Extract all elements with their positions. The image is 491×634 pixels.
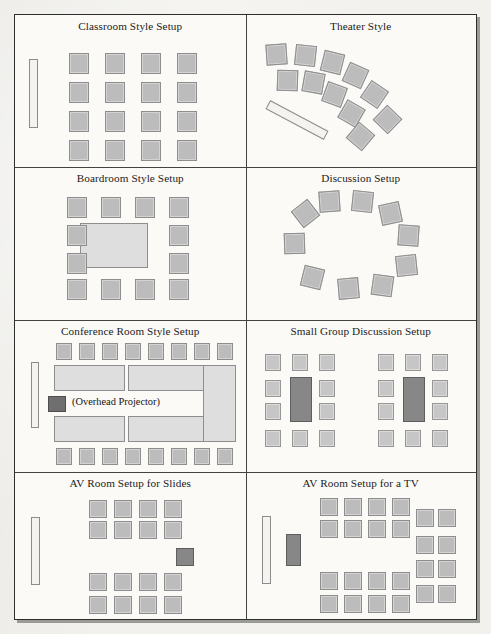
chair [438, 536, 456, 554]
chair [337, 277, 360, 300]
chair [292, 430, 308, 447]
chair [89, 500, 107, 518]
chair [194, 448, 210, 465]
chair [105, 111, 125, 132]
chair [319, 380, 335, 397]
chair [148, 343, 164, 360]
slide-projector [176, 548, 194, 566]
chair [67, 279, 87, 300]
panel-boardroom-style-setup: Boardroom Style Setup [15, 167, 246, 320]
chair [164, 573, 182, 591]
chair [114, 521, 132, 539]
chair [105, 53, 125, 74]
table [128, 365, 207, 391]
chair [392, 498, 410, 516]
panel-title: AV Room Setup for Slides [15, 477, 246, 489]
chair [169, 197, 189, 218]
chair [318, 190, 340, 212]
panel-discussion-setup: Discussion Setup [246, 167, 477, 320]
panel-title: Discussion Setup [246, 172, 477, 184]
chair [416, 560, 434, 578]
screen [29, 59, 38, 128]
chair [102, 343, 118, 360]
page-sheet: Classroom Style Setup [0, 0, 491, 634]
chair [114, 500, 132, 518]
chair [368, 498, 386, 516]
chair [265, 430, 281, 447]
chair [370, 274, 394, 298]
table [128, 416, 207, 442]
chair [114, 573, 132, 591]
panel-title: Small Group Discussion Setup [246, 325, 477, 337]
chair [344, 595, 362, 613]
chair [432, 354, 448, 371]
chair [148, 448, 164, 465]
chair [139, 500, 157, 518]
chair [169, 225, 189, 246]
chair [405, 430, 421, 447]
chair [438, 509, 456, 527]
chair [344, 498, 362, 516]
chair [438, 560, 456, 578]
panel-title: Classroom Style Setup [15, 20, 246, 32]
chair [141, 140, 161, 161]
chair [319, 50, 344, 75]
chair [101, 197, 121, 218]
chair [102, 448, 118, 465]
chair [101, 279, 121, 300]
chair [292, 354, 308, 371]
chair [79, 448, 95, 465]
overhead-projector-caption: (Overhead Projector) [72, 396, 160, 407]
chair [276, 70, 298, 92]
chair [392, 572, 410, 590]
chair [177, 111, 197, 132]
chair [79, 343, 95, 360]
panel-classroom-style-setup: Classroom Style Setup [15, 15, 246, 167]
chair [341, 62, 369, 90]
chair [394, 254, 417, 277]
screen [31, 517, 40, 585]
overhead-projector [48, 396, 66, 412]
chair [139, 596, 157, 614]
chair [299, 265, 324, 290]
panel-av-room-setup-for-a-tv: AV Room Setup for a TV [246, 472, 477, 619]
chair [378, 430, 394, 447]
chair [265, 354, 281, 371]
table [54, 416, 125, 442]
chair [378, 403, 394, 420]
chair [169, 279, 189, 300]
chair [141, 82, 161, 103]
chair [344, 520, 362, 538]
chair [319, 403, 335, 420]
table [54, 365, 125, 391]
chair [378, 354, 394, 371]
panel-title: AV Room Setup for a TV [246, 477, 477, 489]
chair [171, 448, 187, 465]
chair [405, 354, 421, 371]
chair [416, 509, 434, 527]
panel-title: Theater Style [246, 20, 477, 32]
chair [141, 111, 161, 132]
chair [293, 44, 316, 67]
chair [392, 520, 410, 538]
chair [56, 448, 72, 465]
chair [350, 190, 373, 213]
panel-small-group-discussion-setup: Small Group Discussion Setup [246, 320, 477, 472]
chair [432, 403, 448, 420]
chair [319, 354, 335, 371]
chair [139, 521, 157, 539]
chair [177, 53, 197, 74]
chair [320, 520, 338, 538]
chair [67, 197, 87, 218]
chair [105, 140, 125, 161]
chair [171, 343, 187, 360]
chair [164, 596, 182, 614]
chair [416, 536, 434, 554]
chair [89, 521, 107, 539]
chair [345, 122, 375, 152]
chair [265, 403, 281, 420]
panel-grid: Classroom Style Setup [15, 15, 476, 619]
screen [262, 516, 271, 584]
chair [397, 224, 419, 246]
chair [265, 380, 281, 397]
